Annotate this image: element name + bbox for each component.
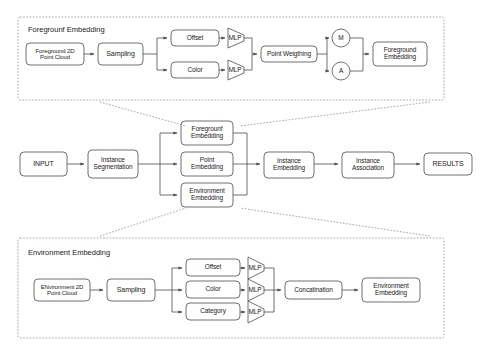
environment-panel-link-left: [100, 208, 186, 236]
env-offset-box: [186, 259, 240, 276]
fg-m-circle: [332, 29, 350, 47]
diagram-vector-layer: [0, 0, 492, 359]
main-point-embedding-box: [181, 152, 233, 176]
foreground-panel-title: Foregrounf Embedding: [28, 25, 105, 34]
env-concatenation-box: [285, 281, 342, 299]
main-environment-embedding-box: [181, 183, 233, 207]
environment-panel-link-right: [240, 208, 430, 236]
fg-mlp-offset-shape: [228, 28, 244, 48]
env-output-box: [362, 278, 420, 302]
env-input-box: [34, 279, 90, 301]
fg-offset-box: [171, 30, 219, 46]
main-results-box: [424, 153, 472, 175]
env-category-box: [186, 303, 240, 320]
foreground-panel-link-right: [240, 102, 430, 126]
fg-mlp-color-shape: [228, 60, 244, 80]
env-color-box: [186, 281, 240, 298]
main-instance-segmentation-box: [88, 150, 138, 178]
foreground-panel-link-left: [100, 102, 186, 126]
main-instance-embedding-box: [264, 152, 314, 178]
env-sampling-box: [107, 279, 155, 301]
fg-sampling-box: [98, 43, 143, 65]
fg-input-box: [26, 43, 84, 65]
main-instance-association-box: [342, 152, 394, 178]
fg-color-box: [171, 62, 219, 78]
diagram-canvas: Foregrounf Embedding Foreground 2D Point…: [0, 0, 492, 359]
main-foreground-embedding-box: [181, 121, 233, 145]
environment-panel-title: Environment Embedding: [28, 248, 110, 257]
env-mlp-category-shape: [248, 301, 264, 323]
env-mlp-offset-shape: [248, 257, 264, 279]
fg-output-box: [373, 42, 427, 66]
fg-point-weighting-box: [261, 46, 317, 62]
fg-a-circle: [332, 62, 350, 80]
env-mlp-color-shape: [248, 279, 264, 301]
main-input-box: [20, 152, 67, 176]
